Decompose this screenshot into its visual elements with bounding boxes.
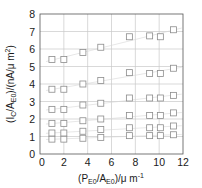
y-tick-label: 0 (29, 148, 35, 160)
data-point (170, 27, 176, 33)
data-point (49, 86, 55, 92)
data-point (157, 125, 163, 131)
data-point (126, 95, 132, 101)
data-point (157, 133, 163, 139)
data-point (170, 110, 176, 116)
y-tick-label: 6 (29, 43, 35, 55)
data-point (49, 57, 55, 63)
y-tick-label: 8 (29, 8, 35, 20)
data-point (147, 133, 153, 139)
data-point (80, 81, 86, 87)
x-tick-label: 8 (132, 156, 138, 168)
data-point (98, 134, 104, 140)
y-tick-label: 2 (29, 113, 35, 125)
data-point (157, 113, 163, 119)
data-point (49, 106, 55, 112)
data-point (170, 65, 176, 71)
y-tick-labels: 012345678 (29, 8, 35, 160)
data-point (126, 133, 132, 139)
data-point (80, 128, 86, 134)
x-tick-labels: 024681012 (39, 156, 189, 168)
data-point (80, 118, 86, 124)
data-point (61, 130, 67, 136)
data-point (98, 116, 104, 122)
data-point (61, 57, 67, 63)
y-tick-label: 3 (29, 96, 35, 108)
data-point (170, 123, 176, 129)
data-point (49, 120, 55, 126)
y-axis-label: (IC/AE0)/(nA/μ m2) (4, 45, 17, 123)
y-tick-label: 7 (29, 26, 35, 38)
data-point (126, 34, 132, 40)
data-point (80, 50, 86, 56)
data-point (126, 70, 132, 76)
data-point (61, 120, 67, 126)
data-point (157, 71, 163, 77)
data-point (80, 135, 86, 141)
data-point (126, 113, 132, 119)
x-axis-label: (PE0/AE0)/μ m-1 (78, 172, 144, 185)
x-tick-label: 6 (109, 156, 115, 168)
chart: 024681012 012345678 (PE0/AE0)/μ m-1 (IC/… (0, 0, 202, 188)
data-point (157, 34, 163, 40)
data-point (157, 95, 163, 101)
data-point (170, 92, 176, 98)
data-point (61, 106, 67, 112)
data-point (61, 86, 67, 92)
x-tick-label: 12 (177, 156, 189, 168)
data-point (147, 125, 153, 131)
data-point (61, 136, 67, 142)
data-point (170, 132, 176, 138)
x-tick-label: 4 (85, 156, 91, 168)
data-point (80, 102, 86, 108)
data-point (147, 33, 153, 39)
y-tick-label: 5 (29, 61, 35, 73)
data-point (147, 71, 153, 77)
data-point (147, 113, 153, 119)
y-tick-label: 4 (29, 78, 35, 90)
data-point (49, 130, 55, 136)
data-point (49, 136, 55, 142)
data-point (98, 78, 104, 84)
data-point (147, 95, 153, 101)
x-tick-label: 2 (61, 156, 67, 168)
data-points (49, 27, 177, 142)
data-point (98, 127, 104, 133)
x-tick-label: 10 (153, 156, 165, 168)
data-point (98, 44, 104, 50)
y-tick-label: 1 (29, 131, 35, 143)
x-tick-label: 0 (39, 156, 45, 168)
data-point (126, 125, 132, 131)
data-point (98, 100, 104, 106)
